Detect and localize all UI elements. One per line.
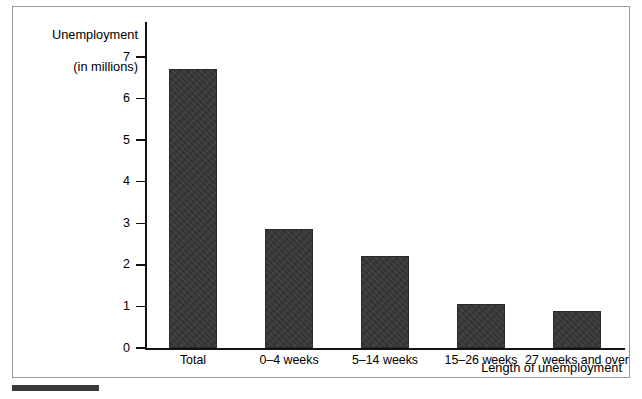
bar <box>169 69 217 348</box>
y-axis-tick <box>136 264 145 265</box>
y-axis-tick <box>136 56 145 57</box>
y-axis-tick-label-text: 3 <box>108 217 130 230</box>
bar <box>265 229 313 348</box>
x-axis-line <box>145 348 625 350</box>
y-axis-tick-label-text: 2 <box>108 258 130 271</box>
y-axis-title-line1: Unemployment <box>52 27 138 42</box>
y-axis-tick-label: 5 <box>108 134 130 146</box>
y-axis-tick <box>136 223 145 224</box>
y-axis-tick-label-text: 6 <box>108 92 130 105</box>
bar <box>457 304 505 348</box>
y-axis-tick-label: 3 <box>108 217 130 229</box>
y-axis-tick <box>136 181 145 182</box>
y-axis-title: Unemployment (in millions) <box>18 11 138 75</box>
y-axis-line <box>145 22 147 349</box>
y-axis-tick-label-text: 7 <box>108 51 130 64</box>
y-axis-tick-label-text: 4 <box>108 175 130 188</box>
y-axis-tick-label: 6 <box>108 92 130 104</box>
y-axis-tick-label: 7 <box>108 51 130 63</box>
footer-rule <box>12 385 99 391</box>
y-axis-tick <box>136 139 145 140</box>
y-axis-tick-label: 4 <box>108 175 130 187</box>
figure-container: Unemployment (in millions) 01234567 Tota… <box>0 0 642 399</box>
y-axis-tick-label-text: 5 <box>108 134 130 147</box>
y-axis-tick <box>136 306 145 307</box>
y-axis-tick-label: 1 <box>108 300 130 312</box>
y-axis-tick <box>136 347 145 348</box>
y-axis-tick-label: 0 <box>108 342 130 354</box>
y-axis-tick <box>136 98 145 99</box>
bar <box>361 256 409 348</box>
x-axis-title: Length of unemployment <box>400 360 622 375</box>
y-axis-tick-label: 2 <box>108 258 130 270</box>
y-axis-tick-label-text: 1 <box>108 300 130 313</box>
bar <box>553 311 601 348</box>
